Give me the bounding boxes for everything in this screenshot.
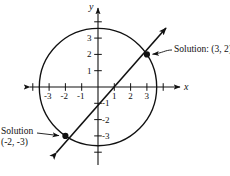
solution-point-lower (62, 133, 68, 139)
y-tick-label--1: -1 (102, 99, 110, 108)
solution-point-upper (144, 51, 150, 57)
x-axis-label: x (184, 82, 188, 92)
y-tick-label--3: -3 (102, 132, 110, 141)
y-tick-label-1: 1 (87, 67, 92, 76)
x-tick-label--2: -2 (61, 92, 69, 101)
solution-label-lower: Solution (-2, -3) (1, 126, 33, 149)
leader-line-lower (37, 133, 59, 136)
graph-figure: -3 -2 -1 1 2 3 3 2 1 -1 -2 -3 x y Soluti… (0, 0, 230, 176)
solution-label-lower-line1: Solution (1, 126, 33, 137)
leader-line-upper (153, 50, 173, 54)
y-axis-label: y (89, 2, 93, 12)
solution-label-upper: Solution: (3, 2) (174, 44, 230, 55)
x-tick-label-3: 3 (145, 92, 150, 101)
x-tick-label--3: -3 (44, 92, 52, 101)
x-tick-label--1: -1 (77, 92, 85, 101)
x-axis (30, 83, 180, 91)
graph-canvas (0, 0, 230, 176)
x-tick-label-2: 2 (128, 92, 133, 101)
solution-label-lower-line2: (-2, -3) (1, 137, 33, 148)
x-tick-label-1: 1 (112, 92, 117, 101)
y-tick-label-3: 3 (87, 34, 92, 43)
y-tick-label-2: 2 (87, 50, 92, 59)
y-tick-label--2: -2 (102, 116, 110, 125)
